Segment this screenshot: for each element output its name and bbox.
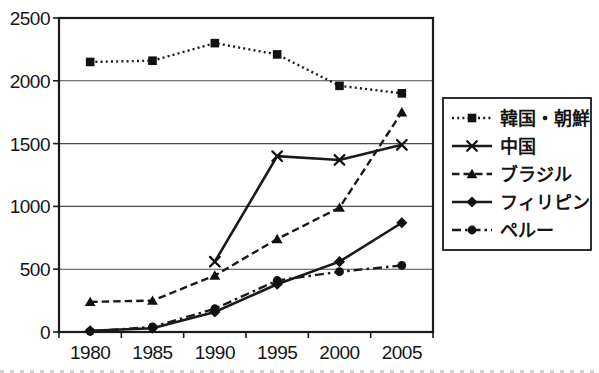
legend-label: ブラジル: [500, 164, 572, 185]
series-marker-circle: [335, 267, 344, 276]
y-axis-tick-label: 2000: [10, 71, 50, 92]
series-marker-square: [398, 89, 407, 98]
legend-label: ペルー: [500, 221, 554, 241]
x-axis-tick-label: 2005: [382, 342, 422, 363]
legend-marker-circle: [468, 226, 477, 235]
series-marker-square: [211, 39, 220, 48]
x-axis-tick-label: 2000: [319, 342, 359, 363]
series-marker-square: [86, 58, 95, 67]
y-axis-tick-label: 500: [20, 259, 50, 280]
series-marker-circle: [148, 323, 157, 332]
series-marker-circle: [273, 276, 282, 285]
y-axis-tick-label: 0: [40, 322, 50, 343]
legend-label: 韓国・朝鮮: [500, 108, 590, 129]
y-axis-tick-label: 1500: [10, 134, 50, 155]
x-axis-tick-label: 1995: [257, 342, 297, 363]
series-marker-circle: [86, 327, 95, 336]
y-axis-tick-label: 1000: [10, 196, 50, 217]
legend-marker-square: [468, 114, 477, 123]
series-marker-square: [148, 56, 157, 65]
line-chart: 0500100015002000250019801985199019952000…: [0, 0, 599, 373]
y-axis-tick-label: 2500: [10, 8, 50, 29]
legend-label: 中国: [500, 136, 536, 157]
legend: 韓国・朝鮮中国ブラジルフィリピンペルー: [443, 98, 591, 250]
legend-label: フィリピン: [500, 193, 590, 213]
x-axis-tick-label: 1980: [70, 342, 110, 363]
series-marker-square: [273, 50, 282, 59]
x-axis-tick-label: 1985: [132, 342, 172, 363]
x-axis-tick-label: 1990: [195, 342, 235, 363]
series-marker-circle: [210, 304, 219, 313]
series-marker-circle: [397, 261, 406, 270]
series-marker-square: [335, 82, 344, 91]
chart-figure: 0500100015002000250019801985199019952000…: [0, 0, 599, 373]
